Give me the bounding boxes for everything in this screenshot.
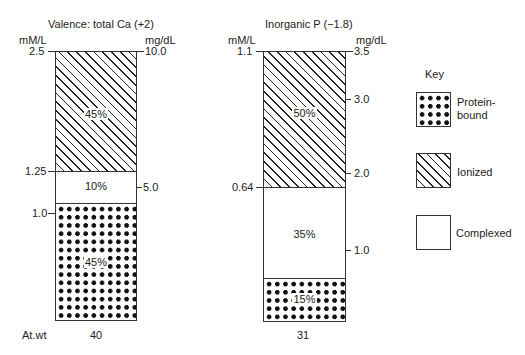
phosphorus-right-tick-label: 3.5 <box>354 45 369 57</box>
ionized-percent: 45% <box>84 108 108 120</box>
phosphorus-at-wt-value: 31 <box>297 329 309 341</box>
at-wt-label: At.wt <box>22 329 46 341</box>
tick-mark <box>136 51 144 52</box>
calcium-bar: 45% 10% 45% <box>55 51 137 321</box>
legend-title: Key <box>425 68 444 80</box>
legend-swatch-complexed <box>416 215 451 250</box>
legend-label-complexed: Complexed <box>456 227 512 239</box>
protein-bound-segment: 15% <box>264 278 345 321</box>
protein-bound-percent: 45% <box>84 256 108 268</box>
ionized-percent: 50% <box>292 107 316 119</box>
complexed-segment: 10% <box>56 171 136 204</box>
phosphorus-right-tick-label: 3.0 <box>354 93 369 105</box>
legend-label-protein-bound: Protein- bound <box>457 96 496 122</box>
phosphorus-right-tick-label: 2.0 <box>354 167 369 179</box>
phosphorus-left-tick-label: 1.1 <box>237 45 252 57</box>
phosphorus-right-tick-label: 1.0 <box>354 244 369 256</box>
protein-bound-segment: 45% <box>56 203 136 320</box>
legend-label-ionized: Ionized <box>457 166 492 178</box>
calcium-at-wt-value: 40 <box>90 329 102 341</box>
ionized-segment: 45% <box>56 52 136 171</box>
phosphorus-title: Inorganic P (−1.8) <box>265 18 353 30</box>
complexed-percent: 10% <box>84 180 108 192</box>
legend-swatch-ionized <box>416 153 451 188</box>
protein-bound-percent: 15% <box>292 293 316 305</box>
calcium-left-tick-label: 2.5 <box>29 45 44 57</box>
complexed-segment: 35% <box>264 187 345 279</box>
calcium-left-tick-label: 1.25 <box>25 165 46 177</box>
legend-swatch-protein-bound <box>416 92 451 127</box>
complexed-percent: 35% <box>292 228 316 240</box>
tick-mark <box>345 51 353 52</box>
phosphorus-bar: 50% 35% 15% <box>263 51 346 322</box>
phosphorus-left-tick-label: 0.64 <box>232 181 253 193</box>
calcium-title: Valence: total Ca (+2) <box>48 18 154 30</box>
ionized-segment: 50% <box>264 52 345 187</box>
calcium-right-tick-label: 5.0 <box>143 181 158 193</box>
calcium-right-tick-label: 10.0 <box>145 45 166 57</box>
calcium-left-tick-label: 1.0 <box>32 207 47 219</box>
